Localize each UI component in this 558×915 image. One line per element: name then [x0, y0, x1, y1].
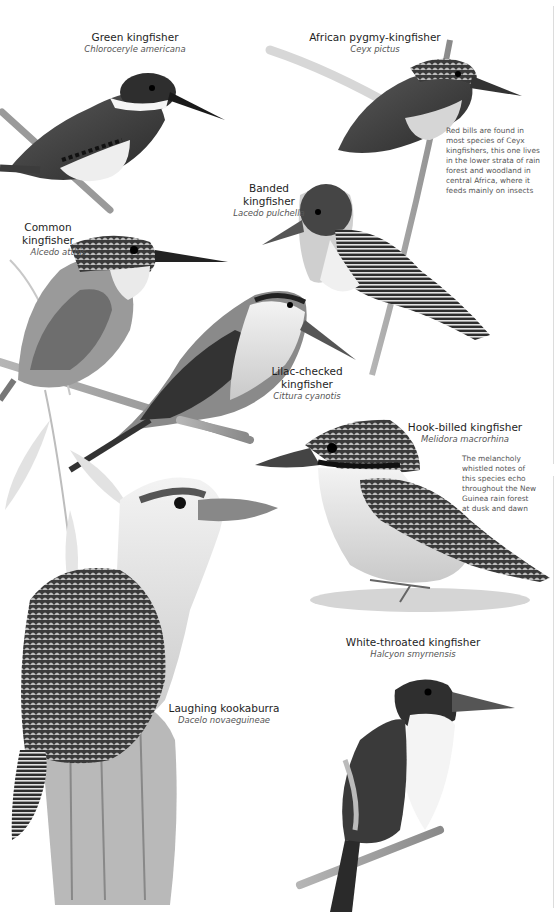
- caption-green-kingfisher: Green kingfisher Chloroceryle americana: [70, 31, 200, 55]
- caption-african-pygmy-kingfisher: African pygmy-kingfisher Ceyx pictus: [305, 31, 445, 55]
- scientific-name: Dacelo novaeguineae: [165, 715, 283, 726]
- caption-lilac-checked-kingfisher: Lilac-checked kingfisher Cittura cyanoti…: [262, 365, 352, 402]
- scientific-name: Halcyon smyrnensis: [345, 649, 481, 660]
- note-hook-billed-kingfisher: The melancholy whistled notes of this sp…: [462, 454, 552, 514]
- common-name-line-2: kingfisher: [225, 195, 313, 208]
- common-name-line-1: Lilac-checked: [262, 365, 352, 378]
- white-throated-kingfisher-illustration: [300, 680, 515, 912]
- note-african-pygmy-kingfisher: Red bills are found in most species of C…: [446, 126, 554, 196]
- scientific-name: Alcedo atthis: [0, 247, 96, 258]
- hook-billed-kingfisher-illustration: [255, 420, 550, 612]
- field-guide-page: Green kingfisher Chloroceryle americana …: [0, 0, 558, 915]
- common-name: Laughing kookaburra: [165, 702, 283, 715]
- caption-banded-kingfisher: Banded kingfisher Lacedo pulchella: [225, 182, 313, 219]
- laughing-kookaburra-illustration: [12, 478, 278, 906]
- common-name-line-1: Banded: [225, 182, 313, 195]
- caption-laughing-kookaburra: Laughing kookaburra Dacelo novaeguineae: [165, 702, 283, 726]
- common-name: Green kingfisher: [70, 31, 200, 44]
- common-name: African pygmy-kingfisher: [305, 31, 445, 44]
- caption-hook-billed-kingfisher: Hook-billed kingfisher Melidora macrorhi…: [395, 421, 535, 445]
- common-name: Hook-billed kingfisher: [395, 421, 535, 434]
- common-name: White-throated kingfisher: [345, 636, 481, 649]
- common-name: Common kingfisher: [0, 221, 96, 247]
- green-kingfisher-illustration: [0, 73, 225, 210]
- scientific-name: Ceyx pictus: [305, 44, 445, 55]
- caption-common-kingfisher: Common kingfisher Alcedo atthis: [0, 221, 96, 258]
- scientific-name: Melidora macrorhina: [395, 434, 535, 445]
- scientific-name: Cittura cyanotis: [262, 391, 352, 402]
- scientific-name: Chloroceryle americana: [70, 44, 200, 55]
- foliage-illustration: [5, 390, 130, 600]
- common-name-line-2: kingfisher: [262, 378, 352, 391]
- caption-white-throated-kingfisher: White-throated kingfisher Halcyon smyrne…: [345, 636, 481, 660]
- scientific-name: Lacedo pulchella: [225, 208, 313, 219]
